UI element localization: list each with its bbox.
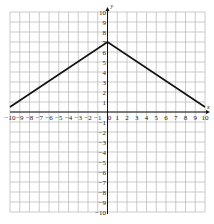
x-tick-label: −7	[36, 114, 44, 122]
y-tick-label: 3	[103, 79, 107, 87]
y-tick-label: 8	[103, 29, 107, 37]
x-tick-label: 3	[135, 114, 139, 122]
x-axis-label: x	[206, 104, 210, 110]
x-tick-label: 10	[202, 114, 210, 122]
x-tick-label: −2	[84, 114, 92, 122]
x-tick-label: −8	[26, 114, 34, 122]
y-tick-label: −1	[99, 119, 107, 127]
x-tick-label: −6	[45, 114, 53, 122]
x-tick-label: 1	[116, 114, 120, 122]
x-tick-label: 2	[125, 114, 129, 122]
x-tick-label: −4	[65, 114, 73, 122]
y-tick-label: −3	[99, 139, 107, 147]
y-tick-label: −10	[95, 209, 106, 217]
y-tick-label: −5	[99, 159, 107, 167]
y-tick-label: −9	[99, 199, 107, 207]
x-tick-label: −5	[55, 114, 63, 122]
y-axis-arrow-icon	[106, 7, 110, 11]
y-tick-label: −4	[99, 149, 107, 157]
x-tick-label: 6	[164, 114, 168, 122]
y-tick-label: 2	[103, 89, 107, 97]
y-tick-label: −6	[99, 169, 107, 177]
y-axis-label: y	[110, 3, 114, 9]
y-tick-label: 1	[103, 99, 107, 107]
x-tick-label: 0	[108, 114, 112, 122]
x-tick-label: 5	[155, 114, 159, 122]
x-tick-label: 4	[145, 114, 149, 122]
y-tick-label: −8	[99, 189, 107, 197]
y-tick-label: 6	[103, 49, 107, 57]
y-tick-label: 5	[103, 59, 107, 67]
x-tick-label: 8	[184, 114, 188, 122]
x-tick-label: −9	[16, 114, 24, 122]
y-tick-label: 9	[103, 19, 107, 27]
y-tick-label: 4	[103, 69, 107, 77]
y-tick-label: −2	[99, 129, 107, 137]
y-tick-label: −7	[99, 179, 107, 187]
x-tick-label: −10	[5, 114, 16, 122]
y-tick-label: 10	[99, 9, 107, 17]
x-tick-label: 7	[174, 114, 178, 122]
coordinate-plane: xy −10−9−8−7−6−5−4−3−2−1012345678910−10−…	[0, 0, 214, 224]
x-tick-label: 9	[194, 114, 198, 122]
x-tick-label: −3	[75, 114, 83, 122]
